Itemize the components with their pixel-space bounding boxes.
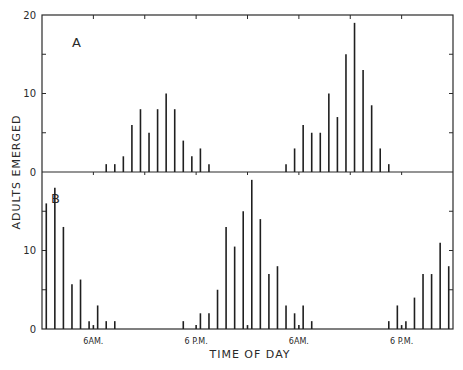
y-tick-label: 0 [30,324,36,335]
x-tick-label: 6 P.M. [185,337,208,346]
x-axis-tick-labels: 6AM.6 P.M.6AM.6 P.M. [83,337,413,346]
panel-label: A [72,35,81,50]
bar-series [46,180,448,329]
bar-series [106,23,389,172]
panel-a: 01020A [23,10,453,178]
emergence-chart: 01020A010B 6AM.6 P.M.6AM.6 P.M. TIME OF … [0,0,463,370]
y-tick-label: 10 [23,88,36,99]
plot-frame [42,15,453,329]
x-tick-label: 6AM. [289,337,309,346]
y-axis-title: ADULTS EMERGED [10,115,23,230]
x-axis-title: TIME OF DAY [208,348,290,361]
x-tick-label: 6AM. [83,337,103,346]
x-tick-label: 6 P.M. [390,337,413,346]
y-tick-label: 20 [23,10,36,21]
y-tick-label: 10 [23,245,36,256]
panel-b: 010B [23,180,453,335]
y-tick-label: 0 [30,167,36,178]
